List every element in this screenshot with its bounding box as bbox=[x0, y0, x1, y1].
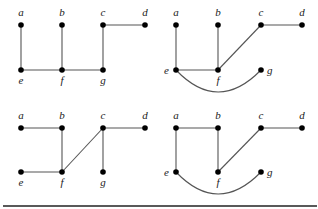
vertex-g bbox=[100, 169, 106, 175]
vertex-label-g: g bbox=[267, 166, 273, 178]
vertex-f bbox=[215, 169, 221, 175]
vertex-label-g: g bbox=[100, 74, 106, 86]
vertex-label-f: f bbox=[216, 74, 221, 86]
vertex-label-f: f bbox=[216, 176, 221, 188]
vertex-label-e: e bbox=[19, 74, 24, 86]
vertex-b bbox=[215, 22, 221, 28]
vertex-d bbox=[142, 125, 148, 131]
vertex-g bbox=[100, 67, 106, 73]
vertex-label-c: c bbox=[101, 109, 106, 121]
edge-f-c bbox=[218, 128, 261, 172]
vertex-e bbox=[18, 169, 24, 175]
vertex-label-d: d bbox=[142, 109, 148, 121]
graph-1: abcdefg bbox=[18, 6, 148, 86]
spanning-trees-diagram: abcdefgabcdefgabcdefgabcdefg bbox=[0, 0, 318, 209]
vertex-label-d: d bbox=[142, 6, 148, 18]
vertex-label-d: d bbox=[299, 6, 305, 18]
vertex-b bbox=[215, 125, 221, 131]
graph-3: abcdefg bbox=[18, 109, 148, 188]
vertex-c bbox=[100, 125, 106, 131]
vertex-e bbox=[173, 169, 179, 175]
vertex-label-g: g bbox=[100, 176, 106, 188]
graph-4: abcdefg bbox=[164, 109, 305, 194]
vertex-label-f: f bbox=[60, 176, 65, 188]
vertex-label-a: a bbox=[173, 6, 179, 18]
vertex-label-b: b bbox=[59, 109, 65, 121]
vertex-b bbox=[59, 125, 65, 131]
vertex-a bbox=[173, 125, 179, 131]
vertex-b bbox=[59, 22, 65, 28]
vertex-a bbox=[18, 125, 24, 131]
vertex-label-c: c bbox=[259, 109, 264, 121]
vertex-f bbox=[59, 169, 65, 175]
vertex-label-a: a bbox=[18, 6, 24, 18]
vertex-label-g: g bbox=[267, 64, 273, 76]
vertex-e bbox=[18, 67, 24, 73]
vertex-label-e: e bbox=[164, 64, 169, 76]
vertex-label-e: e bbox=[164, 166, 169, 178]
vertex-c bbox=[258, 125, 264, 131]
vertex-e bbox=[173, 67, 179, 73]
graph-2: abcdefg bbox=[164, 6, 305, 92]
vertex-label-f: f bbox=[60, 74, 65, 86]
vertex-g bbox=[258, 169, 264, 175]
vertex-label-b: b bbox=[59, 6, 65, 18]
vertex-c bbox=[100, 22, 106, 28]
vertex-label-b: b bbox=[215, 109, 221, 121]
vertex-a bbox=[18, 22, 24, 28]
vertex-g bbox=[258, 67, 264, 73]
vertex-label-e: e bbox=[19, 176, 24, 188]
vertex-c bbox=[258, 22, 264, 28]
vertex-label-d: d bbox=[299, 109, 305, 121]
vertex-label-b: b bbox=[215, 6, 221, 18]
vertex-label-a: a bbox=[173, 109, 179, 121]
vertex-a bbox=[173, 22, 179, 28]
vertex-label-c: c bbox=[101, 6, 106, 18]
vertex-d bbox=[299, 22, 305, 28]
vertex-d bbox=[142, 22, 148, 28]
edge-f-c bbox=[218, 25, 261, 70]
vertex-d bbox=[299, 125, 305, 131]
vertex-f bbox=[215, 67, 221, 73]
vertex-label-a: a bbox=[18, 109, 24, 121]
vertex-f bbox=[59, 67, 65, 73]
vertex-label-c: c bbox=[259, 6, 264, 18]
edge-f-c bbox=[62, 128, 103, 172]
